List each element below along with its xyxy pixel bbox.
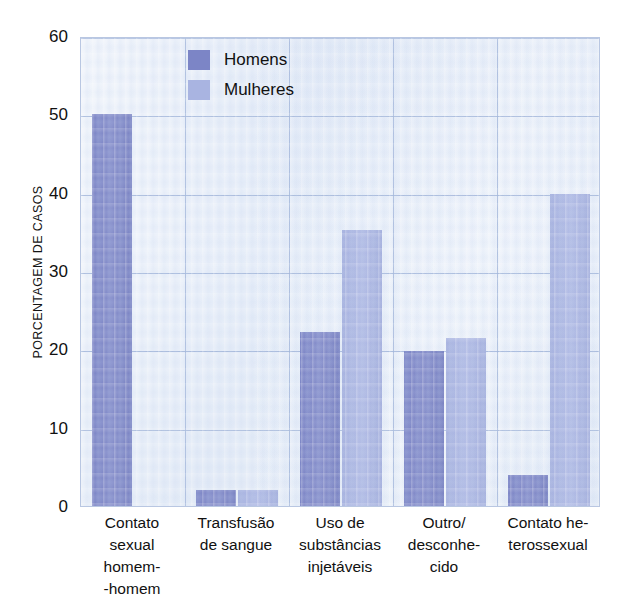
bar-chart-figure: PORCENTAGEM DE CASOS 0102030405060 Homen… xyxy=(0,0,619,604)
gridline-vertical xyxy=(497,38,498,506)
gridline-horizontal xyxy=(81,351,599,352)
y-axis-tick-labels: 0102030405060 xyxy=(26,37,74,507)
bar-mulheres xyxy=(446,338,486,506)
x-tick-label-line: sexual xyxy=(72,534,192,556)
bar-homens xyxy=(300,332,340,506)
x-tick-label-line: Outro/ xyxy=(384,512,504,534)
y-tick-label: 0 xyxy=(59,497,68,517)
bar-mulheres xyxy=(550,194,590,506)
x-tick-label-line: -homem xyxy=(72,578,192,600)
gridline-horizontal xyxy=(81,430,599,431)
x-tick-label-line: cido xyxy=(384,556,504,578)
bar-mulheres xyxy=(342,230,382,506)
x-tick-label-line: homem- xyxy=(72,556,192,578)
gridline-horizontal xyxy=(81,116,599,117)
x-tick-label: Uso desubstânciasinjetáveis xyxy=(280,512,400,578)
gridline-horizontal xyxy=(81,38,599,39)
y-tick-label: 30 xyxy=(49,262,68,282)
x-axis-tick-labels: Contatosexualhomem--homemTransfusãode sa… xyxy=(80,512,600,602)
bar-homens xyxy=(508,475,548,506)
bar-homens xyxy=(196,490,236,506)
gridline-horizontal xyxy=(81,195,599,196)
y-tick-label: 50 xyxy=(49,105,68,125)
gridline-horizontal xyxy=(81,273,599,274)
legend-item-homens: Homens xyxy=(188,45,294,75)
x-tick-label-line: de sangue xyxy=(176,534,296,556)
x-tick-label: Outro/desconhe-cido xyxy=(384,512,504,578)
x-tick-label-line: desconhe- xyxy=(384,534,504,556)
bar-mulheres xyxy=(238,490,278,506)
x-tick-label: Contato he-terossexual xyxy=(488,512,608,556)
plot-area: Homens Mulheres xyxy=(80,37,600,507)
x-tick-label-line: Contato xyxy=(72,512,192,534)
bar-homens xyxy=(92,114,132,506)
legend-item-mulheres: Mulheres xyxy=(188,75,294,105)
legend-swatch-mulheres-icon xyxy=(188,80,210,100)
y-tick-label: 60 xyxy=(49,27,68,47)
y-tick-label: 40 xyxy=(49,184,68,204)
legend-label-mulheres: Mulheres xyxy=(224,80,294,100)
x-tick-label-line: Transfusão xyxy=(176,512,296,534)
legend-swatch-homens-icon xyxy=(188,50,210,70)
x-tick-label: Transfusãode sangue xyxy=(176,512,296,556)
chart-legend: Homens Mulheres xyxy=(188,45,294,105)
x-tick-label-line: Uso de xyxy=(280,512,400,534)
gridline-vertical xyxy=(185,38,186,506)
x-tick-label: Contatosexualhomem--homem xyxy=(72,512,192,600)
y-tick-label: 10 xyxy=(49,419,68,439)
gridline-vertical xyxy=(289,38,290,506)
y-tick-label: 20 xyxy=(49,340,68,360)
x-tick-label-line: terossexual xyxy=(488,534,608,556)
legend-label-homens: Homens xyxy=(224,50,287,70)
bar-homens xyxy=(404,351,444,506)
x-tick-label-line: injetáveis xyxy=(280,556,400,578)
x-tick-label-line: substâncias xyxy=(280,534,400,556)
x-tick-label-line: Contato he- xyxy=(488,512,608,534)
gridline-vertical xyxy=(393,38,394,506)
